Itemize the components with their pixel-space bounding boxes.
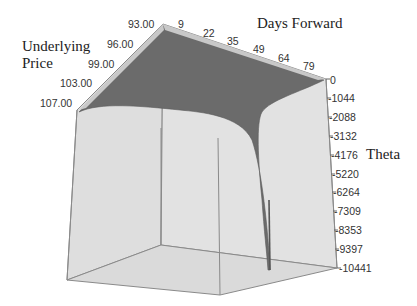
y-axis-title-line1: Underlying xyxy=(22,38,90,55)
z-tick: -4176 xyxy=(331,149,358,161)
z-tick: -2088 xyxy=(329,111,356,123)
z-tick: -10441 xyxy=(339,262,372,274)
x-tick: 22 xyxy=(203,27,215,39)
z-tick: -3132 xyxy=(330,130,357,142)
z-tick: -6264 xyxy=(333,186,360,198)
y-tick: 103.00 xyxy=(60,77,92,89)
z-tick: -8353 xyxy=(335,224,362,236)
x-tick: 35 xyxy=(227,35,239,47)
x-axis-title: Days Forward xyxy=(257,15,342,32)
theta-surface-chart: Underlying Price Days Forward Theta 93.0… xyxy=(0,0,417,306)
x-tick: 79 xyxy=(303,60,315,72)
z-axis-title: Theta xyxy=(366,146,400,163)
y-axis-title: Underlying Price xyxy=(22,38,90,72)
y-tick: 93.00 xyxy=(128,18,154,30)
x-tick: 9 xyxy=(178,18,184,30)
y-tick: 99.00 xyxy=(88,58,114,70)
y-tick: 107.00 xyxy=(40,97,72,109)
y-axis-title-line2: Price xyxy=(22,55,90,72)
x-tick: 49 xyxy=(253,43,265,55)
theta-spike xyxy=(269,200,270,270)
x-tick: 64 xyxy=(278,52,290,64)
y-tick: 96.00 xyxy=(107,38,133,50)
z-tick: 0 xyxy=(330,74,336,86)
z-tick: -9397 xyxy=(336,243,363,255)
z-tick: -7309 xyxy=(334,205,361,217)
z-tick: -1044 xyxy=(328,92,355,104)
z-tick: -5220 xyxy=(332,168,359,180)
